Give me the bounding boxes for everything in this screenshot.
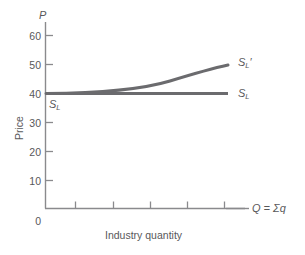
supply-curve-chart: P 60 50 40 30 20 10 0 Price Industry qua…: [0, 0, 305, 255]
chart-plot-area: [0, 0, 305, 255]
supply-curve-sl-prime: [46, 65, 228, 94]
y-tick-label-50: 50: [19, 60, 41, 71]
curve-label-sl-left-sub: L: [56, 103, 60, 112]
y-axis-title: Price: [14, 116, 25, 140]
curve-label-sl-right-sub: L: [245, 92, 249, 101]
curve-label-sl-prime: SL′: [238, 57, 252, 69]
y-tick-label-20: 20: [19, 147, 41, 158]
curve-label-sl-prime-mark: ′: [250, 56, 252, 68]
origin-label-zero: 0: [19, 216, 41, 227]
x-axis-variable-label: Q = Σq: [252, 203, 286, 214]
y-axis-variable-label: P: [39, 10, 46, 21]
y-tick-label-40: 40: [19, 89, 41, 100]
y-tick-label-10: 10: [19, 176, 41, 187]
x-axis-ticks: [76, 202, 225, 209]
curve-label-sl-left: SL: [49, 99, 61, 111]
curve-label-sl-right: SL: [238, 88, 250, 100]
y-tick-label-60: 60: [19, 31, 41, 42]
x-axis-title: Industry quantity: [105, 230, 182, 241]
